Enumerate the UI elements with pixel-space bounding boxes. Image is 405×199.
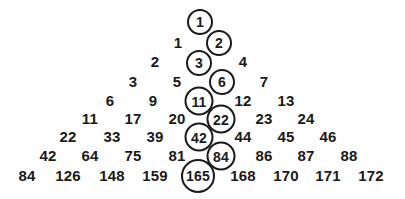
number-cell: 46 [319,129,336,144]
number-cell: 126 [55,168,81,183]
number-cell: 20 [168,111,185,126]
highlighted-number-cell: 2 [206,30,232,56]
number-cell: 12 [234,93,251,108]
number-cell: 2 [151,54,160,69]
number-cell: 6 [106,93,115,108]
number-cell: 88 [340,148,357,163]
number-cell: 13 [277,93,294,108]
highlighted-number-cell: 6 [209,69,235,95]
number-cell: 170 [273,168,299,183]
number-cell: 9 [149,93,158,108]
number-cell: 1 [174,35,183,50]
highlighted-number-cell: 165 [181,159,215,193]
number-triangle-figure: 1122343567691112131117202223242233394244… [0,0,405,199]
number-cell: 171 [315,168,341,183]
number-cell: 17 [124,111,141,126]
number-cell: 172 [358,168,384,183]
number-cell: 5 [173,74,182,89]
number-cell: 24 [297,111,314,126]
number-cell: 148 [99,168,125,183]
number-cell: 159 [142,168,168,183]
number-cell: 81 [168,148,185,163]
number-cell: 86 [255,148,272,163]
highlighted-number-cell: 1 [187,9,213,35]
number-cell: 42 [39,148,56,163]
number-cell: 3 [129,74,138,89]
number-cell: 4 [239,54,248,69]
number-cell: 11 [82,111,98,126]
number-cell: 45 [277,129,294,144]
number-cell: 23 [255,111,272,126]
number-cell: 33 [103,129,120,144]
number-cell: 64 [81,148,98,163]
highlighted-number-cell: 3 [186,50,212,76]
number-cell: 22 [59,129,76,144]
number-cell: 168 [230,168,256,183]
number-cell: 75 [124,148,141,163]
number-cell: 84 [18,168,35,183]
number-cell: 87 [297,148,314,163]
number-cell: 7 [260,74,269,89]
number-cell: 39 [146,129,163,144]
number-cell: 44 [234,129,251,144]
